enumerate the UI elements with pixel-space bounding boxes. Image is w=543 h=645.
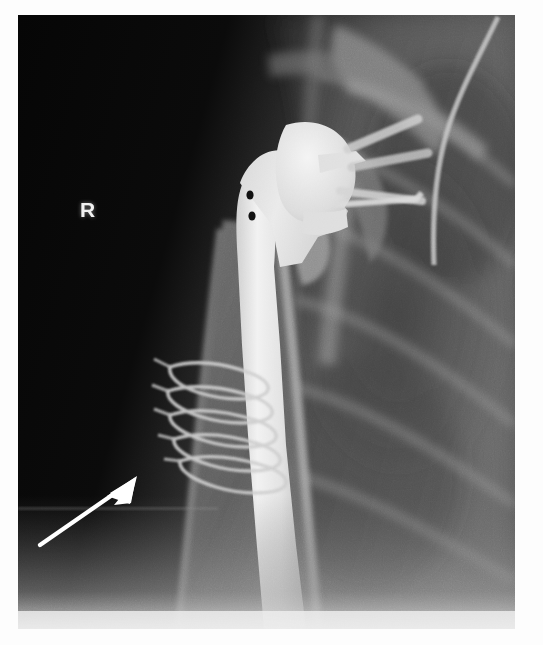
radiograph-canvas [18, 15, 515, 629]
radiograph-film: R [18, 15, 515, 629]
film-grain [18, 15, 515, 629]
radiograph-page: R [0, 0, 543, 645]
